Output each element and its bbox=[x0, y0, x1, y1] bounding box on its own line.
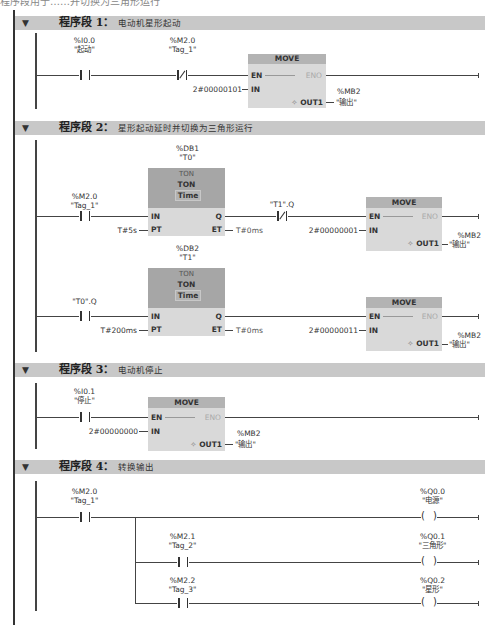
en-eno-line bbox=[383, 216, 413, 217]
no-contact-icon[interactable] bbox=[79, 412, 91, 422]
contact-name: "Tag_1" bbox=[62, 201, 107, 210]
et-value[interactable]: T#0ms bbox=[236, 326, 276, 335]
pin-out1: ✧ OUT1 bbox=[407, 339, 439, 348]
wire bbox=[442, 316, 478, 317]
pin-en: EN bbox=[151, 413, 162, 422]
no-contact-icon[interactable] bbox=[79, 512, 91, 522]
coil-icon[interactable]: () bbox=[421, 556, 437, 568]
collapse-triangle-icon[interactable]: ▼ bbox=[22, 365, 29, 375]
pin-in: IN bbox=[251, 85, 260, 94]
wire bbox=[91, 517, 421, 518]
rung-end bbox=[478, 515, 479, 520]
network-comment[interactable]: 星形起动延时并切换为三角形运行 bbox=[118, 122, 253, 135]
wire bbox=[139, 230, 148, 231]
move-title: MOVE bbox=[366, 197, 442, 208]
coil-icon[interactable]: () bbox=[421, 511, 437, 523]
cut-off-top-text: 程序段用于……并切换为三角形运行 bbox=[0, 0, 494, 6]
no-contact-icon[interactable] bbox=[79, 211, 91, 221]
power-rail bbox=[35, 383, 37, 449]
rung-end bbox=[478, 214, 479, 219]
network-4-header[interactable]: ▼ 程序段 4： 转换输出 bbox=[15, 460, 485, 474]
coil-name: "星形" bbox=[410, 585, 455, 594]
in-value[interactable]: 2#00000000 bbox=[70, 427, 138, 436]
pt-value[interactable]: T#5s bbox=[100, 226, 137, 235]
contact-name: "Tag_2" bbox=[160, 541, 205, 550]
move-block[interactable]: MOVE EN ENO IN ✧ OUT1 bbox=[248, 54, 326, 108]
timer-header: TON TON Time bbox=[148, 168, 225, 208]
wire bbox=[139, 431, 148, 432]
timer-data-type[interactable]: Time bbox=[175, 290, 201, 301]
wire bbox=[91, 75, 176, 76]
in-value[interactable]: 2#00000101 bbox=[175, 85, 242, 94]
move-block[interactable]: MOVE EN ENO IN ✧ OUT1 bbox=[366, 297, 442, 351]
rung-end bbox=[478, 415, 479, 420]
wire bbox=[437, 517, 478, 518]
wire bbox=[225, 444, 233, 445]
move-title: MOVE bbox=[366, 297, 442, 308]
wire bbox=[35, 417, 80, 418]
out-name[interactable]: "输出" bbox=[449, 240, 489, 249]
collapse-triangle-icon[interactable]: ▼ bbox=[22, 18, 29, 28]
pt-value[interactable]: T#200ms bbox=[90, 326, 137, 335]
collapse-triangle-icon[interactable]: ▼ bbox=[22, 123, 29, 133]
move-block[interactable]: MOVE EN ENO IN ✧ OUT1 bbox=[148, 397, 225, 451]
out-name[interactable]: "输出" bbox=[449, 340, 489, 349]
pin-q: Q bbox=[216, 312, 222, 321]
network-3-header[interactable]: ▼ 程序段 3： 电动机停止 bbox=[15, 363, 485, 377]
out-address: %MB2 bbox=[445, 331, 481, 340]
network-title: 程序段 3： bbox=[59, 363, 114, 377]
ton-timer-block[interactable]: TON TON Time IN Q PT ET bbox=[148, 268, 225, 336]
out-address: %MB2 bbox=[445, 231, 481, 240]
et-value[interactable]: T#0ms bbox=[236, 226, 276, 235]
power-rail bbox=[35, 33, 37, 109]
timer-data-type[interactable]: Time bbox=[175, 190, 201, 201]
power-rail bbox=[35, 481, 37, 611]
network-2-header[interactable]: ▼ 程序段 2： 星形起动延时并切换为三角形运行 bbox=[15, 121, 485, 135]
network-comment[interactable]: 转换输出 bbox=[118, 461, 154, 474]
move-block[interactable]: MOVE EN ENO IN ✧ OUT1 bbox=[366, 197, 442, 251]
wire bbox=[35, 216, 80, 217]
wire bbox=[288, 216, 366, 217]
nc-contact-icon[interactable] bbox=[276, 211, 288, 221]
en-eno-line bbox=[383, 316, 413, 317]
timer-instance[interactable]: "T1" bbox=[150, 253, 225, 262]
contact-address: %M2.1 bbox=[160, 532, 205, 541]
network-1-header[interactable]: ▼ 程序段 1： 电动机星形起动 bbox=[15, 16, 485, 30]
coil-address: %Q0.0 bbox=[410, 487, 455, 496]
nc-contact-icon[interactable] bbox=[176, 70, 188, 80]
out-name[interactable]: "输出" bbox=[235, 440, 275, 449]
wire bbox=[442, 344, 448, 345]
no-contact-icon[interactable] bbox=[79, 70, 91, 80]
wire bbox=[189, 562, 421, 563]
wire bbox=[188, 75, 248, 76]
pin-pt: PT bbox=[151, 325, 162, 334]
wire bbox=[359, 230, 366, 231]
ton-timer-block[interactable]: TON TON Time IN Q PT ET bbox=[148, 168, 225, 236]
contact-name: "Tag_1" bbox=[160, 45, 205, 54]
no-contact-icon[interactable] bbox=[79, 311, 91, 321]
collapse-triangle-icon[interactable]: ▼ bbox=[22, 462, 29, 472]
wire bbox=[189, 603, 421, 604]
pin-eno: ENO bbox=[306, 71, 322, 80]
network-title: 程序段 1： bbox=[59, 16, 114, 30]
pin-en: EN bbox=[251, 71, 262, 80]
in-value[interactable]: 2#00000001 bbox=[290, 226, 358, 235]
contact-name: "Tag_1" bbox=[62, 496, 107, 505]
wire bbox=[225, 330, 233, 331]
network-comment[interactable]: 电动机停止 bbox=[118, 364, 163, 377]
out-address: %MB2 bbox=[237, 429, 277, 438]
wire bbox=[225, 417, 478, 418]
pin-in: IN bbox=[151, 212, 160, 221]
no-contact-icon[interactable] bbox=[177, 557, 189, 567]
wire bbox=[35, 75, 80, 76]
coil-icon[interactable]: () bbox=[421, 597, 437, 609]
pin-out1: ✧ OUT1 bbox=[407, 239, 439, 248]
out-name[interactable]: "输出" bbox=[336, 98, 376, 107]
network-comment[interactable]: 电动机星形起动 bbox=[118, 17, 181, 30]
out-address: %MB2 bbox=[337, 87, 377, 96]
contact-name: "T0".Q bbox=[62, 297, 107, 306]
no-contact-icon[interactable] bbox=[177, 598, 189, 608]
timer-instance[interactable]: "T0" bbox=[165, 153, 210, 162]
in-value[interactable]: 2#00000011 bbox=[290, 326, 358, 335]
en-eno-line bbox=[265, 75, 295, 76]
